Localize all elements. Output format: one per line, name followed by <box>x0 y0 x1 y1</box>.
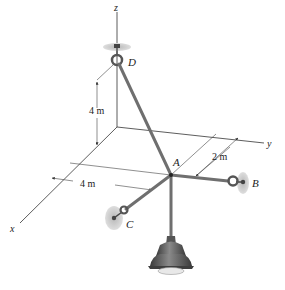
hanging-lamp <box>148 236 194 275</box>
cable-ab <box>171 175 228 181</box>
wall-anchor-c: C <box>105 206 134 230</box>
y-axis <box>117 127 264 143</box>
y-axis-label: y <box>266 138 272 149</box>
point-b-label: B <box>252 177 259 189</box>
junction-a <box>169 173 173 177</box>
dim-y-2m: 2 m <box>212 151 228 162</box>
x-axis <box>20 127 117 223</box>
wall-anchor-b: B <box>229 172 260 194</box>
point-a-label: A <box>172 156 180 168</box>
point-d-label: D <box>127 56 136 68</box>
point-c-label: C <box>126 218 134 230</box>
cable-ac <box>126 175 171 209</box>
construction-lines <box>52 65 238 190</box>
cable-ad <box>119 64 171 175</box>
x-axis-label: x <box>9 223 15 234</box>
diagram-canvas: z y x 4 m 4 m 2 m D A <box>0 0 285 290</box>
cables <box>119 64 228 236</box>
dim-vertical-4m: 4 m <box>89 105 105 116</box>
dim-x-4m: 4 m <box>80 178 96 189</box>
z-axis-label: z <box>113 2 118 13</box>
